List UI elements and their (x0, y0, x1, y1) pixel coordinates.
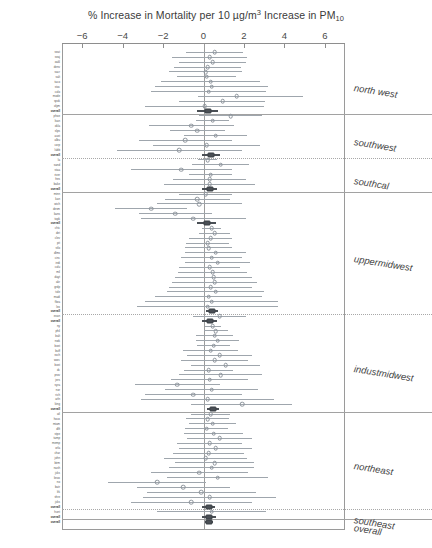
city-estimate-marker (212, 280, 217, 285)
city-row-label: denv (54, 66, 60, 69)
x-tick-label: −2 (158, 30, 169, 41)
city-row-label: phil (56, 330, 61, 333)
city-row-label: colu (55, 266, 60, 269)
city-estimate-marker (206, 451, 211, 456)
x-axis: −6−4−20246 (0, 30, 432, 44)
city-estimate-marker (217, 314, 222, 319)
city-estimate-marker (181, 485, 186, 490)
city-estimate-marker (213, 290, 218, 295)
city-estimate-marker (189, 123, 194, 128)
pooled-row-label: overall (51, 520, 60, 523)
city-row-label: kans (54, 212, 60, 215)
city-row-label: ny (57, 325, 60, 328)
pooled-row-label: overall (51, 505, 60, 508)
city-estimate-marker (199, 490, 204, 495)
city-row-label: nwk (55, 339, 60, 342)
x-tick-label: −4 (117, 30, 128, 41)
city-estimate-marker (207, 495, 212, 500)
region-separator (62, 158, 432, 159)
city-row-label: jcks (55, 501, 60, 504)
city-row-label: syra (55, 383, 60, 386)
city-row-label: spok (54, 100, 60, 103)
pooled-estimate-marker (208, 309, 215, 314)
city-estimate-marker (208, 412, 213, 417)
city-row-label: mil (56, 271, 60, 274)
city-estimate-marker (210, 119, 215, 124)
city-row-label: prov (54, 374, 60, 377)
city-estimate-marker (215, 475, 220, 480)
city-estimate-marker (213, 250, 218, 255)
city-estimate-marker (183, 138, 188, 143)
city-row-label: phoe (54, 115, 60, 118)
city-estimate-marker (177, 148, 182, 153)
city-estimate-marker (207, 441, 212, 446)
city-estimate-marker (197, 470, 202, 475)
pooled-row-label: overall (51, 408, 60, 411)
x-tick-label: 2 (241, 30, 246, 41)
city-estimate-marker (209, 226, 214, 231)
city-estimate-marker (215, 260, 220, 265)
city-row-label: tamp (54, 437, 60, 440)
city-row-label: memp (52, 442, 60, 445)
region-label: north west (353, 82, 398, 100)
city-row-label: clev (55, 237, 60, 240)
city-estimate-marker (208, 236, 213, 241)
city-row-label: knox (54, 476, 60, 479)
city-row-label: nash (54, 466, 60, 469)
city-estimate-marker (205, 397, 210, 402)
chart-title-sub: 10 (336, 14, 345, 23)
city-row-label: tole (55, 290, 60, 293)
city-row-label: lrk (57, 491, 60, 494)
city-estimate-marker (213, 329, 218, 334)
city-estimate-marker (235, 94, 240, 99)
city-estimate-marker (191, 392, 196, 397)
x-tick-label: 4 (282, 30, 287, 41)
city-estimate-marker (210, 270, 215, 275)
city-estimate-marker (210, 422, 215, 427)
city-row-label: aust (55, 134, 60, 137)
city-row-label: hunt (54, 510, 60, 513)
city-estimate-marker (195, 128, 200, 133)
city-row-label: olym (54, 105, 60, 108)
city-estimate-marker (211, 275, 216, 280)
x-tick-label: −6 (77, 30, 88, 41)
city-row-label: jers (55, 378, 60, 381)
city-row-label: hous (54, 417, 60, 420)
city-row-label: corp (54, 144, 60, 147)
city-row-label: slps (55, 129, 60, 132)
city-estimate-marker (175, 382, 180, 387)
city-estimate-marker (195, 197, 200, 202)
region-label: uppermidwest (353, 253, 413, 273)
pooled-row-label: overall (51, 515, 60, 518)
pooled-estimate-marker (206, 519, 213, 524)
city-estimate-marker (212, 358, 217, 363)
city-estimate-marker (197, 202, 202, 207)
region-separator (62, 314, 432, 315)
city-estimate-marker (155, 480, 160, 485)
city-row-label: seat (55, 51, 60, 54)
city-row-label: lubb (55, 149, 60, 152)
city-estimate-marker (213, 446, 218, 451)
city-estimate-marker (218, 373, 223, 378)
city-estimate-marker (240, 402, 245, 407)
city-estimate-marker (209, 387, 214, 392)
city-row-label: buff (55, 349, 60, 352)
city-row-label: sand (54, 163, 60, 166)
city-estimate-marker (204, 75, 209, 80)
city-row-label: river (54, 173, 60, 176)
region-label: southwest (353, 136, 397, 154)
city-row-label: cinc (55, 256, 60, 259)
city-row-label: dlms (54, 251, 60, 254)
city-estimate-marker (205, 241, 210, 246)
city-estimate-marker (206, 368, 211, 373)
city-row-label: bake (54, 183, 60, 186)
region-separator (62, 192, 432, 193)
city-estimate-marker (204, 143, 209, 148)
region-label: industmidwest (353, 363, 414, 383)
city-row-label: orla (55, 447, 60, 450)
city-estimate-marker (207, 378, 212, 383)
city-estimate-marker (191, 216, 196, 221)
city-estimate-marker (228, 114, 233, 119)
region-label: northeast (353, 461, 394, 478)
city-row-label: flwa (55, 300, 60, 303)
